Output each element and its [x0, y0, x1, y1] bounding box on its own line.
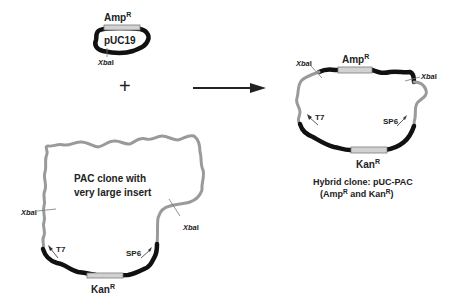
hybrid-ampr-gene-box	[338, 67, 372, 73]
hybrid-clone: AmpR XbaI XbaI T7 SP6 KanR Hybrid clone:…	[295, 53, 437, 199]
puc19-ampr-gene-box	[104, 25, 140, 30]
pac-xbai-left-site-tick	[37, 209, 56, 211]
pac-sp6-label: SP6	[126, 249, 142, 258]
pac-kanr-label: KanR	[91, 283, 115, 295]
puc19-plasmid: AmpR pUC19 XbaI	[95, 11, 148, 67]
pac-xbai-left-label: XbaI	[20, 208, 37, 217]
pac-xbai-right-label: XbaI	[182, 223, 199, 232]
pac-xbai-right-site-tick	[169, 199, 180, 216]
hybrid-caption-line2: (AmpR and KanR)	[320, 188, 393, 200]
pac-title-line1: PAC clone with	[74, 173, 146, 184]
pac-clone: PAC clone with very large insert XbaI Xb…	[20, 136, 204, 295]
right-arrow-icon	[193, 83, 266, 93]
puc19-ampr-label: AmpR	[104, 11, 131, 23]
hybrid-sp6-promoter-arrow-icon	[397, 115, 407, 126]
plus-operator: +	[119, 75, 131, 97]
hybrid-ampr-label: AmpR	[342, 53, 369, 65]
pac-kanr-gene-box	[87, 273, 123, 278]
puc19-name-label: pUC19	[104, 35, 136, 46]
puc19-xbai-label: XbaI	[97, 58, 114, 67]
hybrid-caption-line1: Hybrid clone: pUC-PAC	[313, 177, 413, 187]
hybrid-xbai-left-label: XbaI	[295, 59, 312, 68]
hybrid-insert-right	[414, 82, 426, 126]
hybrid-bottom-backbone	[300, 124, 414, 150]
hybrid-kanr-gene-box	[351, 147, 387, 153]
pac-sp6-promoter-arrow-icon	[141, 247, 152, 258]
hybrid-sp6-label: SP6	[383, 117, 399, 126]
cloning-diagram: AmpR pUC19 XbaI + PAC clone with very la…	[0, 0, 453, 308]
pac-t7-label: T7	[56, 245, 66, 254]
hybrid-kanr-label: KanR	[356, 158, 380, 170]
hybrid-t7-label: T7	[315, 113, 325, 122]
hybrid-xbai-right-label: XbaI	[420, 72, 437, 81]
pac-title-line2: very large insert	[74, 187, 152, 198]
